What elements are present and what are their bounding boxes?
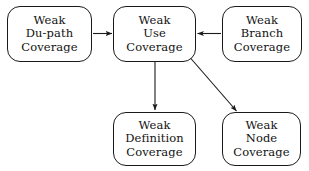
node-label-line: Weak bbox=[139, 119, 171, 132]
node-label-line: Du-path bbox=[26, 27, 73, 40]
node-label-line: Use bbox=[143, 27, 166, 40]
node-weak-branch-coverage: Weak Branch Coverage bbox=[222, 6, 302, 62]
diagram-canvas: Weak Du-path Coverage Weak Use Coverage … bbox=[0, 0, 309, 171]
node-label-line: Weak bbox=[246, 119, 278, 132]
node-label-line: Weak bbox=[246, 14, 278, 27]
edge-use-to-node bbox=[187, 54, 237, 111]
node-weak-definition-coverage: Weak Definition Coverage bbox=[113, 112, 196, 166]
node-label-line: Definition bbox=[125, 132, 184, 145]
node-label-line: Weak bbox=[139, 14, 171, 27]
node-label-line: Coverage bbox=[21, 41, 77, 54]
node-weak-node-coverage: Weak Node Coverage bbox=[222, 112, 301, 166]
node-label-line: Coverage bbox=[126, 146, 182, 159]
node-weak-du-path-coverage: Weak Du-path Coverage bbox=[7, 6, 92, 62]
node-label-line: Node bbox=[246, 132, 278, 145]
node-label-line: Coverage bbox=[234, 41, 290, 54]
node-label-line: Coverage bbox=[126, 41, 182, 54]
node-label-line: Coverage bbox=[233, 146, 289, 159]
node-label-line: Branch bbox=[241, 27, 284, 40]
node-weak-use-coverage: Weak Use Coverage bbox=[113, 6, 196, 62]
node-label-line: Weak bbox=[34, 14, 66, 27]
